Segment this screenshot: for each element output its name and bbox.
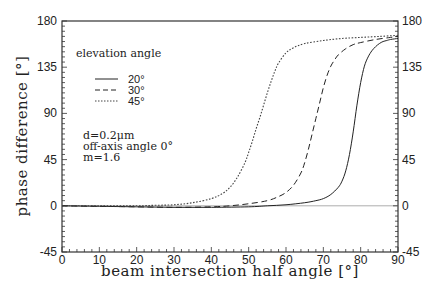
- series-line-dotted: [62, 35, 398, 205]
- y-tick-label-left: 180: [37, 14, 57, 28]
- phase-difference-chart: 0102030405060708090-45-45004545909013513…: [0, 0, 444, 294]
- annotation-refractive-index: m=1.6: [83, 151, 120, 164]
- x-axis-title: beam intersection half angle [°]: [101, 262, 359, 280]
- series-line-dashed: [62, 36, 398, 207]
- series-line-solid: [62, 38, 398, 207]
- parameter-annotations: d=0.2μm off-axis angle 0° m=1.6: [83, 129, 173, 164]
- legend: elevation angle 20° 30° 45°: [76, 47, 161, 107]
- legend-label-45: 45°: [128, 95, 145, 107]
- y-tick-label-right: 180: [402, 14, 422, 28]
- y-tick-label-left: 135: [37, 60, 57, 74]
- x-tick-label: 0: [59, 253, 66, 267]
- y-tick-label-left: 90: [44, 106, 58, 120]
- y-tick-label-right: 45: [402, 153, 416, 167]
- y-tick-label-right: 0: [402, 199, 409, 213]
- y-axis-title: phase difference [°]: [13, 56, 31, 217]
- y-tick-label-left: 45: [44, 153, 58, 167]
- legend-title: elevation angle: [76, 47, 161, 60]
- y-tick-label-right: 135: [402, 60, 422, 74]
- data-curves: [62, 35, 398, 207]
- y-tick-label-right: -45: [402, 245, 420, 259]
- y-tick-label-left: -45: [40, 245, 58, 259]
- y-tick-label-left: 0: [50, 199, 57, 213]
- y-tick-label-right: 90: [402, 106, 416, 120]
